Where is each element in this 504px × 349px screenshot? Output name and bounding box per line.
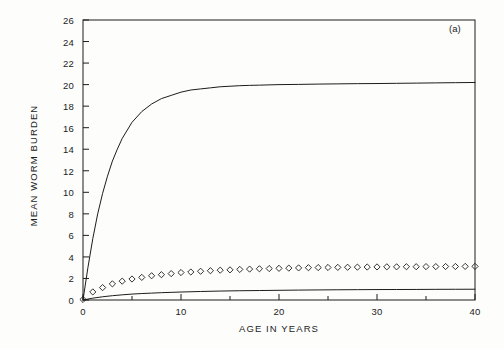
diamond-marker xyxy=(247,266,253,272)
diamond-marker xyxy=(100,285,106,291)
y-tick-label: 24 xyxy=(40,36,74,47)
x-tick-label: 20 xyxy=(274,306,285,317)
diamond-marker xyxy=(413,264,419,270)
y-tick-label: 10 xyxy=(40,187,74,198)
diamond-marker xyxy=(433,264,439,270)
diamond-marker xyxy=(364,264,370,270)
diamond-marker xyxy=(286,265,292,271)
diamond-marker xyxy=(129,276,135,282)
diamond-marker xyxy=(139,274,145,280)
diamond-marker xyxy=(168,271,174,277)
panel-label: (a) xyxy=(449,23,461,34)
y-tick-label: 22 xyxy=(40,58,74,69)
chart-figure: 02468101214161820222426 010203040 MEAN W… xyxy=(0,0,504,349)
x-tick-label: 40 xyxy=(470,306,481,317)
diamond-marker xyxy=(335,264,341,270)
x-axis-title: AGE IN YEARS xyxy=(83,323,475,334)
diamond-marker xyxy=(345,264,351,270)
diamond-marker xyxy=(403,264,409,270)
diamond-marker xyxy=(266,265,272,271)
y-tick-label: 4 xyxy=(40,251,74,262)
data-series xyxy=(80,82,478,302)
diamond-marker xyxy=(207,268,213,274)
y-tick-label: 26 xyxy=(40,15,74,26)
diamond-marker xyxy=(109,281,115,287)
diamond-marker xyxy=(296,265,302,271)
diamond-marker xyxy=(149,273,155,279)
x-tick-label: 0 xyxy=(80,306,85,317)
diamond-marker xyxy=(423,264,429,270)
diamond-marker xyxy=(217,267,223,273)
y-tick-label: 16 xyxy=(40,122,74,133)
diamond-marker xyxy=(394,264,400,270)
diamond-marker xyxy=(374,264,380,270)
diamond-marker xyxy=(237,266,243,272)
diamond-marker xyxy=(178,269,184,275)
plot-canvas xyxy=(0,0,504,349)
diamond-marker xyxy=(462,263,468,269)
diamond-marker xyxy=(158,272,164,278)
y-axis-title: MEAN WORM BURDEN xyxy=(28,86,39,246)
diamond-marker xyxy=(315,264,321,270)
diamond-marker xyxy=(305,265,311,271)
diamond-marker xyxy=(90,289,96,295)
axis-ticks xyxy=(83,20,475,300)
y-tick-label: 20 xyxy=(40,79,74,90)
y-tick-label: 14 xyxy=(40,144,74,155)
y-tick-label: 18 xyxy=(40,101,74,112)
diamond-marker xyxy=(119,278,125,284)
diamond-marker xyxy=(354,264,360,270)
diamond-marker xyxy=(452,263,458,269)
diamond-marker xyxy=(384,264,390,270)
y-tick-label: 12 xyxy=(40,165,74,176)
diamond-marker xyxy=(227,267,233,273)
plot-frame xyxy=(83,20,475,300)
y-tick-label: 6 xyxy=(40,230,74,241)
x-tick-label: 30 xyxy=(372,306,383,317)
diamond-marker xyxy=(188,269,194,275)
diamond-marker xyxy=(325,264,331,270)
x-tick-label: 10 xyxy=(176,306,187,317)
diamond-marker xyxy=(443,263,449,269)
diamond-marker xyxy=(198,268,204,274)
diamond-marker xyxy=(256,266,262,272)
y-tick-label: 0 xyxy=(40,295,74,306)
y-tick-label: 8 xyxy=(40,208,74,219)
upper-saturating-curve xyxy=(83,82,475,300)
y-tick-label: 2 xyxy=(40,273,74,284)
diamond-marker xyxy=(276,265,282,271)
